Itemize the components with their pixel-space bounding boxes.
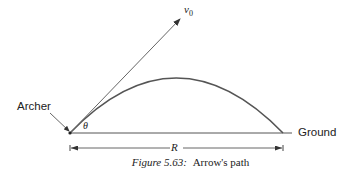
velocity-subscript: 0	[189, 9, 193, 18]
velocity-vector-arrow	[70, 19, 180, 133]
caption-label: Figure 5.63:	[132, 156, 187, 168]
velocity-label: v0	[184, 4, 193, 18]
archer-label: Archer	[17, 101, 51, 113]
range-label: R	[171, 142, 178, 153]
figure-caption: Figure 5.63: Arrow's path	[0, 157, 353, 168]
projectile-diagram: Archer Ground v0 θ R Figure 5.63: Arrow'…	[0, 0, 353, 171]
archer-point	[68, 131, 71, 134]
angle-label: θ	[83, 121, 88, 131]
ground-label: Ground	[298, 127, 336, 139]
caption-text: Arrow's path	[193, 156, 250, 168]
trajectory-curve	[70, 78, 283, 133]
archer-pointer-arrow	[50, 113, 69, 131]
